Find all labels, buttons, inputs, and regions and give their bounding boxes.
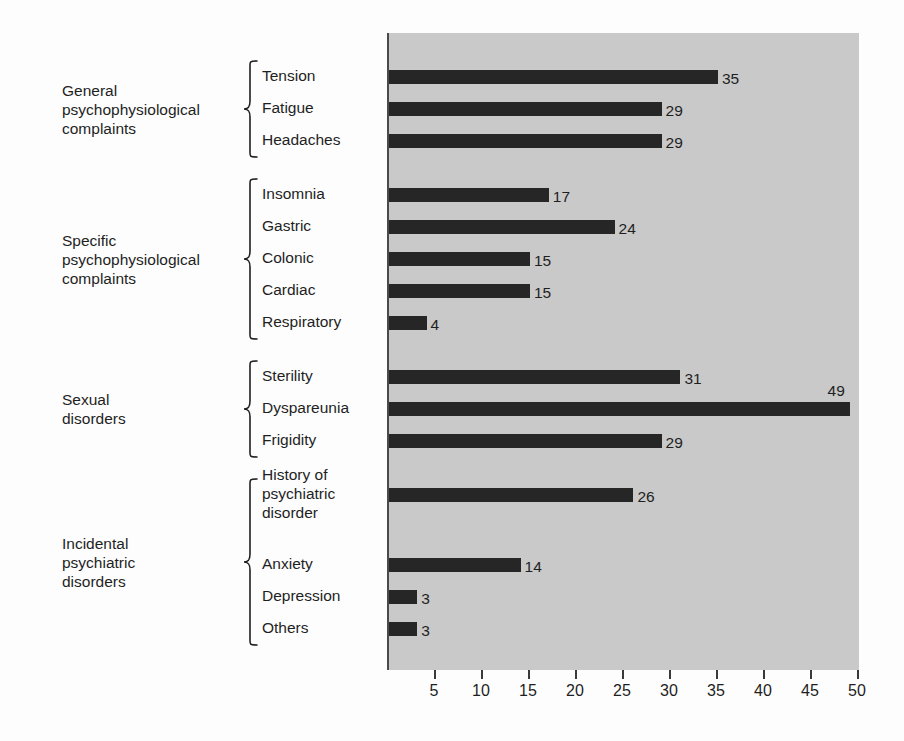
bar-value-label: 4 [431, 317, 440, 332]
category-label: Cardiac [262, 280, 315, 299]
category-label: Insomnia [262, 184, 325, 203]
category-label: Tension [262, 66, 315, 85]
category-label: Fatigue [262, 98, 314, 117]
axis-tick [434, 670, 436, 679]
category-label-line: Cardiac [262, 280, 315, 299]
axis-tick-label: 40 [754, 681, 772, 700]
bar-value-label: 35 [722, 71, 739, 86]
axis-tick [716, 670, 718, 679]
bar [389, 252, 530, 266]
category-label: Anxiety [262, 554, 313, 573]
group-title: Incidentalpsychiatricdisorders [62, 534, 242, 591]
bar [389, 316, 427, 330]
category-label: Headaches [262, 130, 340, 149]
axis-tick-label: 15 [519, 681, 537, 700]
group-title-line: General [62, 81, 242, 100]
category-label-line: Dyspareunia [262, 398, 349, 417]
bar-value-label: 29 [666, 135, 683, 150]
bar [389, 188, 549, 202]
bar-value-label: 3 [421, 591, 430, 606]
group-title-line: Specific [62, 231, 242, 250]
bar [389, 558, 521, 572]
axis-tick [857, 670, 859, 679]
group-brace [243, 178, 259, 340]
group-title-line: complaints [62, 269, 242, 288]
bar [389, 102, 662, 116]
axis-tick [763, 670, 765, 679]
category-label-line: History of [262, 465, 335, 484]
bar-value-label: 31 [684, 371, 701, 386]
category-label-line: Anxiety [262, 554, 313, 573]
group-brace [243, 478, 259, 646]
category-label: Dyspareunia [262, 398, 349, 417]
bar-value-label: 26 [637, 489, 654, 504]
group-title: Specificpsychophysiologicalcomplaints [62, 231, 242, 288]
group-title-line: Incidental [62, 534, 242, 553]
category-label-line: Gastric [262, 216, 311, 235]
category-label-line: Respiratory [262, 312, 341, 331]
axis-tick-label: 50 [848, 681, 866, 700]
bar-value-label: 15 [534, 285, 551, 300]
bar-value-label: 3 [421, 623, 430, 638]
axis-tick [575, 670, 577, 679]
category-label: Sterility [262, 366, 313, 385]
group-title-line: Sexual [62, 390, 242, 409]
category-label: Respiratory [262, 312, 341, 331]
category-label-line: disorder [262, 503, 335, 522]
chart-page: TensionFatigueHeadachesGeneralpsychophys… [0, 0, 904, 741]
category-label-line: Tension [262, 66, 315, 85]
group-title-line: complaints [62, 119, 242, 138]
x-axis: 5101520253035404550 [387, 670, 859, 710]
axis-tick-label: 25 [613, 681, 631, 700]
category-label-line: Colonic [262, 248, 314, 267]
group-title-line: psychophysiological [62, 100, 242, 119]
axis-tick [622, 670, 624, 679]
axis-tick [810, 670, 812, 679]
bar-value-label: 17 [553, 189, 570, 204]
bar-value-label: 24 [619, 221, 636, 236]
group-brace [243, 360, 259, 458]
axis-tick [481, 670, 483, 679]
bar [389, 402, 850, 416]
category-label: Colonic [262, 248, 314, 267]
category-label-line: Fatigue [262, 98, 314, 117]
category-label-line: Sterility [262, 366, 313, 385]
axis-tick-label: 30 [660, 681, 678, 700]
bar [389, 220, 615, 234]
axis-tick-label: 35 [707, 681, 725, 700]
bar [389, 134, 662, 148]
axis-tick-label: 5 [430, 681, 439, 700]
category-label-column: TensionFatigueHeadachesGeneralpsychophys… [0, 0, 387, 741]
bar [389, 488, 633, 502]
axis-tick-label: 10 [472, 681, 490, 700]
category-label-line: Depression [262, 586, 340, 605]
group-title-line: psychophysiological [62, 250, 242, 269]
group-title: Generalpsychophysiologicalcomplaints [62, 81, 242, 138]
bar [389, 284, 530, 298]
plot-area: 352929172415154314929261433 [387, 33, 859, 670]
category-label: Frigidity [262, 430, 316, 449]
group-title-line: psychiatric [62, 553, 242, 572]
bar-value-label: 29 [666, 103, 683, 118]
group-title: Sexualdisorders [62, 390, 242, 428]
category-label: Others [262, 618, 309, 637]
category-label-line: Frigidity [262, 430, 316, 449]
axis-tick [669, 670, 671, 679]
category-label-line: Insomnia [262, 184, 325, 203]
category-label: Depression [262, 586, 340, 605]
group-title-line: disorders [62, 572, 242, 591]
axis-tick-label: 45 [801, 681, 819, 700]
axis-tick [528, 670, 530, 679]
bar [389, 70, 718, 84]
category-label-line: psychiatric [262, 484, 335, 503]
group-title-line: disorders [62, 409, 242, 428]
category-label-line: Others [262, 618, 309, 637]
category-label-line: Headaches [262, 130, 340, 149]
axis-tick-label: 20 [566, 681, 584, 700]
bar-value-label: 49 [828, 383, 845, 398]
category-label: Gastric [262, 216, 311, 235]
bar [389, 370, 680, 384]
bar-value-label: 15 [534, 253, 551, 268]
bar-value-label: 14 [525, 559, 542, 574]
bar [389, 590, 417, 604]
